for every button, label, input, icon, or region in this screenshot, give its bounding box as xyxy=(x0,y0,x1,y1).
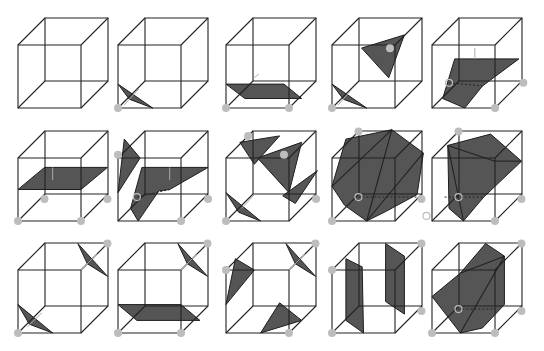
normal-arrow-icon xyxy=(242,195,255,209)
cube-edge xyxy=(18,243,45,270)
cube-case-13 xyxy=(328,240,425,337)
cube-edge xyxy=(181,194,208,221)
active-vertex-marker xyxy=(354,128,362,136)
active-vertex-marker xyxy=(77,217,85,225)
cube-edge xyxy=(432,243,459,270)
cube-edge xyxy=(395,81,422,108)
active-vertex-marker xyxy=(222,266,230,274)
active-vertex-marker xyxy=(519,79,527,87)
active-vertex-marker xyxy=(491,217,499,225)
cube-edge xyxy=(495,18,522,45)
active-vertex-marker xyxy=(328,329,336,337)
isosurface-triangle xyxy=(261,303,302,333)
active-vertex-marker xyxy=(517,195,525,203)
active-vertex-marker xyxy=(517,307,525,315)
cube-edge xyxy=(495,81,522,108)
active-vertex-marker xyxy=(428,329,436,337)
cube-edge xyxy=(81,306,108,333)
cube-case-2 xyxy=(222,18,316,112)
cube-case-10 xyxy=(14,240,111,337)
active-vertex-marker xyxy=(114,329,122,337)
cube-case-8 xyxy=(328,128,430,225)
active-vertex-marker xyxy=(222,217,230,225)
active-vertex-marker xyxy=(328,266,336,274)
cube-case-9 xyxy=(432,128,525,225)
cube-edge xyxy=(118,243,145,270)
cube-edge xyxy=(181,81,208,108)
active-vertex-marker xyxy=(386,44,394,52)
active-vertex-marker xyxy=(454,128,462,136)
marching-cubes-diagram xyxy=(0,0,544,351)
active-vertex-marker xyxy=(114,151,122,159)
active-vertex-marker xyxy=(417,195,425,203)
cube-edge xyxy=(81,81,108,108)
cube-edge xyxy=(81,18,108,45)
active-vertex-marker xyxy=(103,195,111,203)
cube-case-0 xyxy=(18,18,108,108)
active-vertex-marker xyxy=(222,104,230,112)
active-vertex-marker xyxy=(311,240,319,248)
isosurface-triangle xyxy=(332,84,367,108)
cube-case-3 xyxy=(328,18,422,112)
active-vertex-marker xyxy=(114,104,122,112)
cube-edge xyxy=(289,18,316,45)
cube-edge xyxy=(181,18,208,45)
active-vertex-marker xyxy=(491,104,499,112)
cube-case-6 xyxy=(114,131,212,225)
cube-case-14 xyxy=(428,240,525,337)
active-vertex-marker xyxy=(14,217,22,225)
active-vertex-marker xyxy=(40,195,48,203)
cube-edge xyxy=(395,18,422,45)
active-vertex-marker xyxy=(177,217,185,225)
cube-edge xyxy=(332,18,359,45)
cube-case-4 xyxy=(432,18,527,112)
isosurface-triangle xyxy=(18,167,108,189)
hidden-vertex-marker xyxy=(423,212,430,219)
isosurface-triangle xyxy=(118,305,200,321)
active-vertex-marker xyxy=(517,240,525,248)
cube-edge xyxy=(118,18,145,45)
cube-edge xyxy=(18,18,45,45)
cube-edge xyxy=(226,18,253,45)
active-vertex-marker xyxy=(285,104,293,112)
active-vertex-marker xyxy=(14,329,22,337)
active-vertex-marker xyxy=(280,151,288,159)
cube-case-5 xyxy=(14,131,111,225)
cube-case-1 xyxy=(114,18,208,112)
cube-edge xyxy=(18,81,45,108)
active-vertex-marker xyxy=(204,195,212,203)
cube-edge xyxy=(289,131,316,158)
active-vertex-marker xyxy=(103,240,111,248)
cube-edge xyxy=(81,131,108,158)
active-vertex-marker xyxy=(491,329,499,337)
isosurface-triangle xyxy=(118,84,153,108)
active-vertex-marker xyxy=(328,217,336,225)
cube-edge xyxy=(432,18,459,45)
active-vertex-marker xyxy=(312,195,320,203)
cube-edge xyxy=(18,131,45,158)
active-vertex-marker xyxy=(417,240,425,248)
active-vertex-marker xyxy=(244,132,252,140)
active-vertex-marker xyxy=(417,307,425,315)
normal-arrow-icon xyxy=(254,74,258,78)
cube-edge xyxy=(181,131,208,158)
active-vertex-marker xyxy=(203,240,211,248)
cube-case-12 xyxy=(222,240,319,337)
cube-edge xyxy=(226,306,253,333)
cube-case-11 xyxy=(114,240,211,337)
active-vertex-marker xyxy=(328,104,336,112)
cube-case-7 xyxy=(222,131,320,225)
active-vertex-marker xyxy=(285,329,293,337)
active-vertex-marker xyxy=(177,329,185,337)
